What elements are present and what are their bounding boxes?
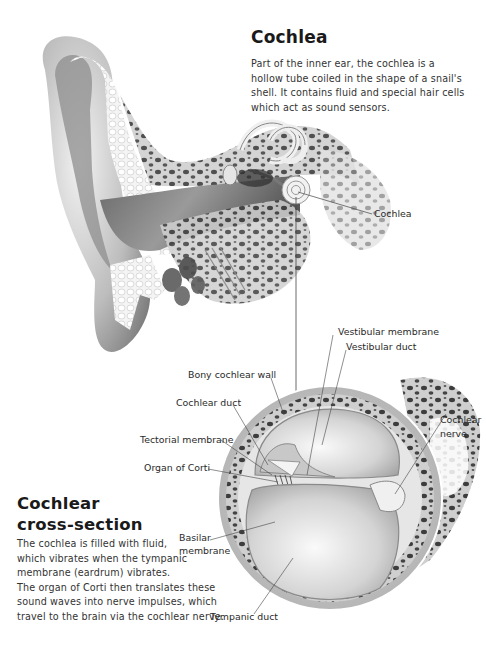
cochlea-description-line: hollow tube coiled in the shape of a sna… xyxy=(251,72,466,87)
cross-section-title: Cochlear cross-section xyxy=(17,493,143,535)
cross-section-description-line: The cochlea is filled with fluid, xyxy=(17,537,217,552)
cochlea-description: Part of the inner ear, the cochlea is a … xyxy=(251,57,466,115)
label-cochlear-nerve-line2: nerve xyxy=(440,428,467,440)
label-cochlear-duct: Cochlear duct xyxy=(176,397,241,409)
cochlea-description-line: shell. It contains fluid and special hai… xyxy=(251,86,466,101)
label-organ-of-corti: Organ of Corti xyxy=(144,462,210,474)
label-cochlear-nerve-line1: Cochlear xyxy=(440,414,481,426)
label-vestibular-membrane: Vestibular membrane xyxy=(338,326,439,338)
cross-section-title-line: cross-section xyxy=(17,514,143,535)
cross-section-description-line: travel to the brain via the cochlear ner… xyxy=(17,610,217,625)
cross-section-title-line: Cochlear xyxy=(17,493,143,514)
cochlea-title: Cochlea xyxy=(251,27,328,47)
cochlea-callout-label: Cochlea xyxy=(374,208,412,220)
cross-section-description-line: The organ of Corti then translates these xyxy=(17,581,217,596)
label-vestibular-duct: Vestibular duct xyxy=(346,341,416,353)
cross-section-illustration xyxy=(218,377,480,610)
label-tectorial-membrane: Tectorial membrane xyxy=(140,434,234,446)
cross-section-description-line: sound waves into nerve impulses, which xyxy=(17,595,217,610)
label-bony-cochlear-wall: Bony cochlear wall xyxy=(188,369,276,381)
cochlea-description-line: Part of the inner ear, the cochlea is a xyxy=(251,57,466,72)
cochlea-description-line: which act as sound sensors. xyxy=(251,101,466,116)
cross-section-description-line: which vibrates when the tympanic xyxy=(17,552,217,567)
cross-section-description-line: membrane (eardrum) vibrates. xyxy=(17,566,217,581)
cross-section-description: The cochlea is filled with fluid, which … xyxy=(17,537,217,625)
